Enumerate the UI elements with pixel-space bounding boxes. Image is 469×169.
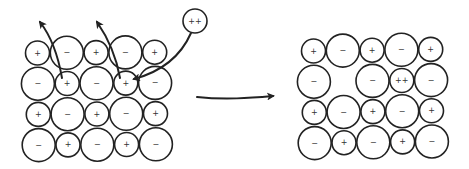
anion-ion: − xyxy=(22,129,55,162)
cation-ion: + xyxy=(302,39,326,63)
anion-ion: − xyxy=(357,126,390,159)
cation-ion: + xyxy=(115,133,139,157)
before-lattice: +−+−+−+−+−+−+−+−+−+− xyxy=(21,36,172,162)
cation-ion: + xyxy=(26,41,50,65)
anion-label: − xyxy=(93,79,100,88)
anion-ion: − xyxy=(298,127,331,160)
anion-label: − xyxy=(122,48,129,57)
cation-label: + xyxy=(399,137,406,146)
anion-label: − xyxy=(429,137,436,146)
anion-label: − xyxy=(35,141,42,150)
cation-label: + xyxy=(123,140,130,149)
cation-label: + xyxy=(370,107,377,116)
anion-label: − xyxy=(153,140,160,149)
cation-label: + xyxy=(152,109,159,118)
cation-label: + xyxy=(64,79,71,88)
cation-ion: + xyxy=(332,131,356,155)
anion-ion: − xyxy=(327,96,360,129)
anion-ion: − xyxy=(81,128,114,161)
after-lattice: +−+−+−−++−+−+−+−+−+− xyxy=(297,33,448,159)
cation-label: + xyxy=(151,48,158,57)
cation-ion: + xyxy=(85,102,109,126)
anion-label: − xyxy=(152,78,159,87)
cation-ion: + xyxy=(391,130,415,154)
anion-ion: − xyxy=(80,67,113,100)
anion-label: − xyxy=(399,107,406,116)
cation-label: + xyxy=(122,79,129,88)
cation-ion: + xyxy=(420,99,444,123)
anion-ion: − xyxy=(110,97,143,130)
divalent-cation-label: ++ xyxy=(188,17,201,26)
cation-label: + xyxy=(310,47,317,56)
cation-label: + xyxy=(311,108,318,117)
divalent-cation-label: ++ xyxy=(395,76,408,85)
defect-diagram: +−+−+−+−+−+−+−+−+−+− +−+−+−−++−+−+−+−+−+… xyxy=(0,0,469,169)
anion-label: − xyxy=(428,76,435,85)
anion-label: − xyxy=(340,108,347,117)
anion-label: − xyxy=(339,46,346,55)
cation-label: + xyxy=(369,46,376,55)
cation-label: + xyxy=(34,49,41,58)
cation-label: + xyxy=(93,48,100,57)
anion-label: − xyxy=(311,77,318,86)
cation-ion: + xyxy=(302,100,326,124)
anion-ion: − xyxy=(356,64,389,97)
cation-label: + xyxy=(94,110,101,119)
anion-label: − xyxy=(311,139,318,148)
anion-ion: − xyxy=(21,67,54,100)
anion-ion: − xyxy=(415,125,448,158)
anion-ion: − xyxy=(51,98,84,131)
cation-label: + xyxy=(65,140,72,149)
cation-ion: + xyxy=(360,38,384,62)
anion-ion: − xyxy=(139,128,172,161)
cation-ion: + xyxy=(361,100,385,124)
cation-label: + xyxy=(427,45,434,54)
cation-ion: + xyxy=(144,102,168,126)
process-arrow xyxy=(197,96,273,99)
cation-ion: + xyxy=(26,102,50,126)
cation-ion: + xyxy=(56,133,80,157)
anion-ion: − xyxy=(386,95,419,128)
divalent-cation-ion: ++ xyxy=(390,69,414,93)
cation-ion: + xyxy=(55,72,79,96)
cation-label: + xyxy=(35,110,42,119)
anion-label: − xyxy=(398,45,405,54)
cation-ion: + xyxy=(114,71,138,95)
cation-label: + xyxy=(341,138,348,147)
anion-ion: − xyxy=(415,64,448,97)
incoming-divalent-ion: ++ xyxy=(183,9,207,33)
anion-label: − xyxy=(369,76,376,85)
cation-ion: + xyxy=(143,40,167,64)
anion-ion: − xyxy=(385,33,418,66)
anion-ion: − xyxy=(297,65,330,98)
cation-ion: + xyxy=(419,37,443,61)
anion-label: − xyxy=(64,110,71,119)
anion-label: − xyxy=(94,140,101,149)
cation-label: + xyxy=(428,106,435,115)
anion-label: − xyxy=(35,79,42,88)
anion-ion: − xyxy=(326,34,359,67)
anion-label: − xyxy=(63,48,70,57)
anion-label: − xyxy=(123,109,130,118)
anion-label: − xyxy=(370,138,377,147)
cation-ion: + xyxy=(84,41,108,65)
